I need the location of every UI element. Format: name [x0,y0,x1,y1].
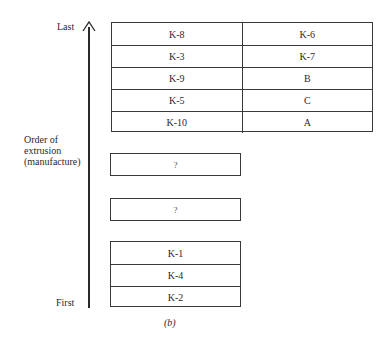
stack-cell: K-1 [111,242,240,264]
unknown-box-1: ? [110,153,241,176]
table-row: K-8 K-6 [112,23,372,45]
order-axis-line [88,27,90,308]
axis-title-line-2: extrusion [24,145,81,156]
table-row: K-5 C [112,89,372,111]
stack-cell: K-2 [111,287,240,308]
stack-row: K-4 [111,264,240,286]
table-cell: C [242,90,373,111]
stack-cell: K-4 [111,265,240,286]
table-row: K-3 K-7 [112,45,372,67]
axis-top-label: Last [57,21,74,32]
table-cell: B [242,68,373,89]
stack-row: K-2 [111,286,240,308]
axis-title: Order of extrusion (manufacture) [24,134,81,167]
axis-title-line-1: Order of [24,134,81,145]
table-row: K-10 A [112,111,372,133]
top-table: K-8 K-6 K-3 K-7 K-9 B K-5 C K-10 A [111,22,373,132]
table-cell: K-8 [112,23,242,45]
bottom-stack: K-1 K-4 K-2 [110,241,241,307]
table-cell: K-3 [112,46,242,67]
table-cell: K-7 [242,46,373,67]
stack-row: K-1 [111,242,240,264]
table-cell: K-10 [112,112,242,133]
figure-caption: (b) [164,317,176,328]
axis-title-line-3: (manufacture) [24,156,81,167]
axis-bottom-label: First [56,297,74,308]
table-cell: K-9 [112,68,242,89]
table-cell: K-6 [242,23,373,45]
table-cell: K-5 [112,90,242,111]
table-row: K-9 B [112,67,372,89]
unknown-box-2: ? [110,198,241,221]
table-cell: A [242,112,373,133]
